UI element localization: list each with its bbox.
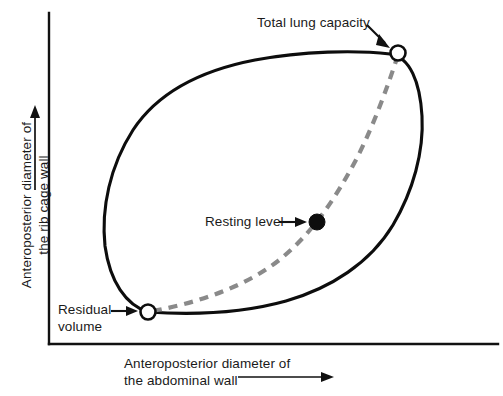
x-axis-arrow-head: [321, 372, 334, 382]
chest-wall-loop-curve: [104, 52, 422, 313]
residual-volume-label-line2: volume: [58, 318, 111, 335]
residual-volume-marker[interactable]: [141, 305, 156, 320]
y-axis-label-line1: Anteroposterior diameter of: [18, 100, 35, 310]
x-axis-label: Anteroposterior diameter of the abdomina…: [124, 355, 290, 389]
y-axis-label-line2: the rib cage wall: [35, 100, 52, 310]
resting-arrow-head: [295, 217, 307, 227]
residual-volume-arrow: [111, 306, 138, 316]
chest-wall-loop-group: [104, 52, 422, 313]
figure-container: Total lung capacity Resting level Residu…: [0, 0, 503, 396]
total-lung-capacity-label: Total lung capacity: [257, 15, 370, 31]
resting-level-marker[interactable]: [309, 214, 325, 230]
resting-level-label: Resting level: [205, 214, 284, 230]
residual-volume-label: Residual volume: [58, 301, 111, 335]
relaxation-characteristic-curve: [153, 61, 396, 311]
x-axis-label-line2: the abdominal wall: [124, 372, 290, 389]
total-lung-capacity-marker[interactable]: [391, 46, 406, 61]
total-lung-capacity-arrow: [367, 25, 390, 48]
x-axis-label-line1: Anteroposterior diameter of: [124, 355, 290, 372]
relaxation-curve-group: [153, 61, 396, 311]
axes-group: [49, 13, 498, 344]
y-axis-label: Anteroposterior diameter of the rib cage…: [18, 100, 52, 310]
chart-canvas: [0, 0, 503, 396]
residual-volume-label-line1: Residual: [58, 301, 111, 318]
